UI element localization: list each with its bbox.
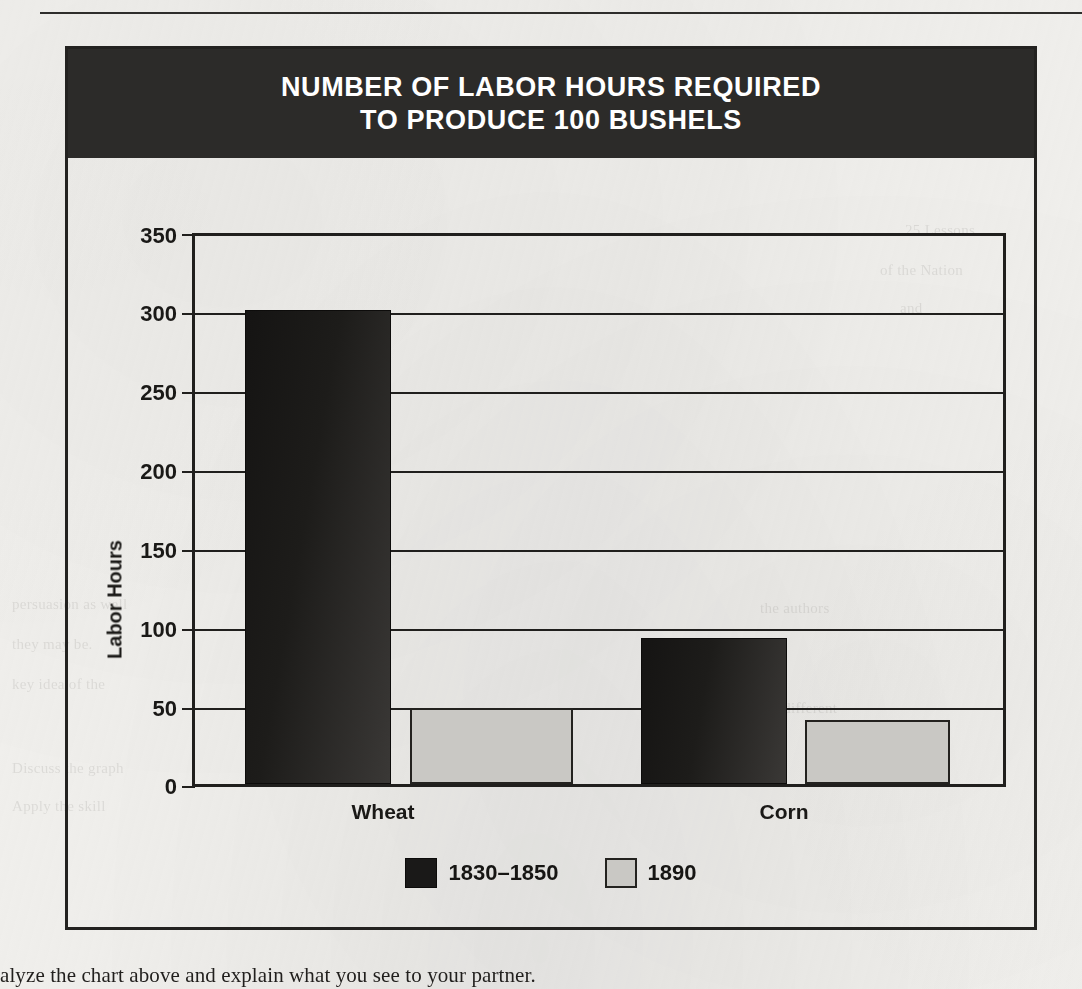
ytick-label-50: 50 <box>153 696 177 722</box>
chart-title-line-2: TO PRODUCE 100 BUSHELS <box>360 104 742 137</box>
ytick-150 <box>182 550 195 552</box>
chart-title-banner: NUMBER OF LABOR HOURS REQUIRED TO PRODUC… <box>68 49 1034 158</box>
chart-title-line-1: NUMBER OF LABOR HOURS REQUIRED <box>281 71 821 104</box>
ytick-300 <box>182 313 195 315</box>
gridline-350 <box>195 234 1003 236</box>
ytick-0 <box>182 786 195 788</box>
ytick-200 <box>182 471 195 473</box>
page-body-caption: alyze the chart above and explain what y… <box>0 963 1082 989</box>
ytick-label-0: 0 <box>165 774 177 800</box>
plot-frame: 350 300 250 200 150 100 50 0 <box>192 233 1006 787</box>
ytick-350 <box>182 234 195 236</box>
bar-wheat-1830-1850 <box>245 310 391 784</box>
chart-legend: 1830–1850 1890 <box>68 858 1034 888</box>
chart-figure-card: NUMBER OF LABOR HOURS REQUIRED TO PRODUC… <box>65 46 1037 930</box>
page-top-rule <box>40 12 1082 14</box>
bar-corn-1830-1850 <box>641 638 787 784</box>
ytick-label-200: 200 <box>140 459 177 485</box>
legend-label-1830-1850: 1830–1850 <box>448 860 558 886</box>
ytick-label-300: 300 <box>140 301 177 327</box>
bar-wheat-1890 <box>410 708 573 784</box>
ytick-250 <box>182 392 195 394</box>
ytick-label-250: 250 <box>140 380 177 406</box>
bar-corn-1890 <box>805 720 950 784</box>
ytick-50 <box>182 708 195 710</box>
caption-text: alyze the chart above and explain what y… <box>0 963 1082 988</box>
legend-label-1890: 1890 <box>648 860 697 886</box>
legend-item-1890: 1890 <box>605 858 697 888</box>
legend-item-1830-1850: 1830–1850 <box>405 858 558 888</box>
ytick-label-350: 350 <box>140 223 177 249</box>
ytick-label-150: 150 <box>140 538 177 564</box>
ytick-label-100: 100 <box>140 617 177 643</box>
ytick-100 <box>182 629 195 631</box>
plot-area: Labor Hours 350 300 250 200 150 100 50 <box>68 158 1034 927</box>
xlabel-wheat: Wheat <box>352 800 415 824</box>
y-axis-title: Labor Hours <box>104 515 127 685</box>
legend-swatch-dark-icon <box>405 858 437 888</box>
xlabel-corn: Corn <box>760 800 809 824</box>
legend-swatch-light-icon <box>605 858 637 888</box>
